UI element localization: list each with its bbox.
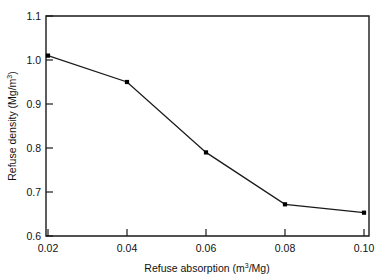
x-tick-label-0: 0.02 <box>38 242 59 254</box>
y-axis-title-post: ) <box>6 71 18 75</box>
y-axis-title: Refuse density (Mg/m3) <box>6 71 18 181</box>
y-tick-label-4: 1.0 <box>26 54 41 66</box>
data-point-0 <box>46 54 50 58</box>
data-point-1 <box>125 80 129 84</box>
data-point-2 <box>204 150 208 154</box>
line-chart: 0.6 0.7 0.8 0.9 1.0 1.1 0.02 0.04 0.06 0… <box>0 0 384 280</box>
x-tick-label-4: 0.10 <box>354 242 375 254</box>
y-tick-label-2: 0.8 <box>26 142 41 154</box>
y-tick-label-5: 1.1 <box>26 10 41 22</box>
x-tick-label-1: 0.04 <box>117 242 138 254</box>
x-tick-label-3: 0.08 <box>275 242 296 254</box>
y-tick-label-0: 0.6 <box>26 230 41 242</box>
y-tick-label-1: 0.7 <box>26 186 41 198</box>
data-point-4 <box>362 211 366 215</box>
y-axis-title-pre: Refuse density (Mg/m <box>6 78 18 180</box>
chart-figure: 0.6 0.7 0.8 0.9 1.0 1.1 0.02 0.04 0.06 0… <box>0 0 384 280</box>
y-tick-label-3: 0.9 <box>26 98 41 110</box>
x-axis-title: Refuse absorption (m3/Mg) <box>144 262 269 274</box>
x-tick-label-2: 0.06 <box>196 242 217 254</box>
x-axis-title-post: /Mg) <box>249 262 270 274</box>
data-point-3 <box>283 202 287 206</box>
x-axis-title-pre: Refuse absorption (m <box>144 262 245 274</box>
